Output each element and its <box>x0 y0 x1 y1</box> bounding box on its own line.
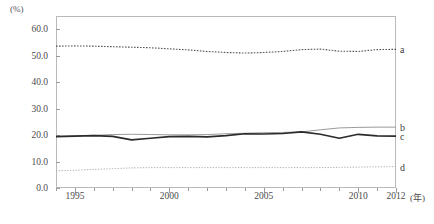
x-axis-tick-label: 2000 <box>160 191 179 201</box>
series-line-c <box>56 132 396 140</box>
y-axis-tick-label: 30.0 <box>6 104 48 114</box>
y-axis-tick-label: 60.0 <box>6 24 48 34</box>
x-axis-minor-tick <box>207 188 208 191</box>
x-axis-minor-tick <box>320 188 321 191</box>
x-axis-minor-tick <box>56 188 57 191</box>
series-label-a: a <box>400 44 404 55</box>
x-axis-minor-tick <box>302 188 303 191</box>
x-axis-minor-tick <box>339 188 340 191</box>
y-axis-unit-label: (%) <box>10 4 24 14</box>
x-axis-minor-tick <box>377 188 378 191</box>
line-chart: (%) 0.010.020.030.040.050.060.0 19952000… <box>0 0 434 224</box>
y-axis-tick-label: 50.0 <box>6 51 48 61</box>
series-line-d <box>56 167 396 171</box>
x-axis-tick-label: 2012 <box>387 191 406 201</box>
x-axis-minor-tick <box>113 188 114 191</box>
x-axis-minor-tick <box>132 188 133 191</box>
x-axis-minor-tick <box>188 188 189 191</box>
x-axis-tick-label: 2010 <box>349 191 368 201</box>
x-axis-minor-tick <box>94 188 95 191</box>
series-label-c: c <box>400 131 404 142</box>
x-axis-tick-label: 2005 <box>254 191 273 201</box>
x-axis-minor-tick <box>150 188 151 191</box>
x-axis-unit-label: (年) <box>410 191 425 204</box>
series-lines <box>56 16 396 188</box>
y-axis-tick-label: 10.0 <box>6 157 48 167</box>
x-axis-minor-tick <box>245 188 246 191</box>
y-axis-tick-label: 0.0 <box>6 183 48 193</box>
x-axis-minor-tick <box>283 188 284 191</box>
series-label-d: d <box>400 161 405 172</box>
x-axis-minor-tick <box>226 188 227 191</box>
x-axis-tick-label: 1995 <box>65 191 84 201</box>
series-line-a <box>56 46 396 53</box>
y-axis-tick-label: 40.0 <box>6 77 48 87</box>
y-axis-tick-label: 20.0 <box>6 130 48 140</box>
